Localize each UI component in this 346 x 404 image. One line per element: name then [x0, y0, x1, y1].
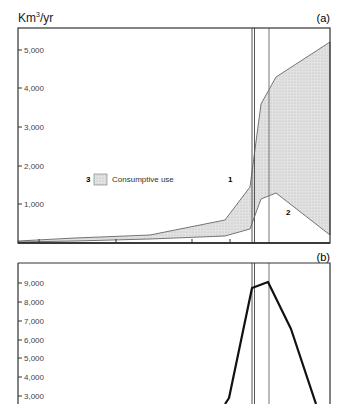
panel-b-frame — [18, 263, 330, 404]
chart-canvas: Km3/yr (a) 5,000 4,000 3,000 2,000 — [0, 0, 346, 404]
y-tick-label: 6,000 — [24, 336, 45, 345]
y-tick-label: 5,000 — [24, 46, 45, 55]
y-axis-a: 5,000 4,000 3,000 2,000 1,000 — [18, 46, 45, 209]
y-tick-label: 3,000 — [24, 392, 45, 401]
y-axis-unit: Km3/yr — [18, 11, 53, 25]
y-tick-label: 5,000 — [24, 354, 45, 363]
legend-label: Consumptive use — [112, 175, 174, 184]
panel-b-label: (b) — [317, 251, 330, 263]
panel-b: (b) 9,000 8,000 7,000 6,000 5,000 4,000 … — [18, 251, 330, 404]
y-tick-label: 2,000 — [24, 162, 45, 171]
curve-2-label: 2 — [286, 208, 291, 217]
y-tick-label: 1,000 — [24, 200, 45, 209]
y-tick-label: 7,000 — [24, 317, 45, 326]
y-tick-label: 4,000 — [24, 373, 45, 382]
panel-a-label: (a) — [317, 12, 330, 24]
y-tick-label: 9,000 — [24, 279, 45, 288]
legend-number: 3 — [86, 175, 91, 184]
y-axis-b: 9,000 8,000 7,000 6,000 5,000 4,000 3,00… — [18, 279, 45, 401]
consumptive-use-area — [18, 42, 330, 242]
legend-swatch — [94, 174, 107, 185]
y-tick-label: 3,000 — [24, 123, 45, 132]
legend: 3 Consumptive use — [86, 174, 174, 185]
curve-1-label: 1 — [228, 175, 233, 184]
data-line — [225, 282, 316, 404]
y-tick-label: 4,000 — [24, 84, 45, 93]
panel-a: Km3/yr (a) 5,000 4,000 3,000 2,000 — [18, 11, 330, 243]
y-tick-label: 8,000 — [24, 298, 45, 307]
